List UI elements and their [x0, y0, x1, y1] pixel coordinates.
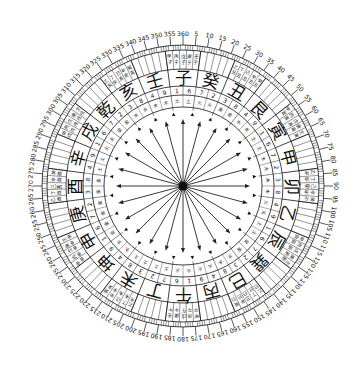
- number-cell: 9: [199, 276, 204, 284]
- degree-label-150: 150: [253, 313, 267, 325]
- degree-label-85: 85: [332, 168, 340, 177]
- triangle-marker: [137, 126, 142, 131]
- element-cell: 金: [108, 230, 116, 237]
- dragon-branch: 午: [181, 307, 186, 314]
- element-cell: 火: [197, 100, 203, 106]
- number-cell: 8: [222, 268, 229, 276]
- degree-label-290: 290: [34, 127, 45, 141]
- degree-label-65: 65: [317, 116, 327, 126]
- degree-label-30: 30: [254, 48, 264, 58]
- degree-label-350: 350: [150, 31, 163, 40]
- triangle-marker: [224, 241, 229, 246]
- degree-label-20: 20: [230, 38, 240, 47]
- dragon-branch: 酉: [57, 170, 63, 176]
- mountain-子: 子: [175, 68, 192, 88]
- dragon-branch: 子: [174, 59, 179, 65]
- triangle-marker: [253, 175, 257, 179]
- degree-label-360: 360: [177, 30, 189, 37]
- number-cell: 7: [199, 89, 204, 97]
- number-cell: 7: [162, 276, 167, 284]
- element-cell: 金: [95, 178, 101, 183]
- arrow-head-icon: [164, 121, 169, 127]
- degree-label-15: 15: [218, 34, 227, 43]
- element-cell: 火: [197, 266, 203, 272]
- element-cell: 金: [227, 111, 234, 119]
- triangle-marker: [123, 227, 128, 232]
- degree-label-265: 265: [27, 193, 35, 205]
- number-cell: 6: [100, 129, 108, 136]
- number-cell: 8: [126, 261, 133, 269]
- dragon-stem: 壬: [167, 313, 173, 319]
- triangle-marker: [224, 126, 229, 131]
- element-cell: 火: [207, 263, 213, 269]
- number-cell: 7: [270, 152, 278, 158]
- arrow-head-icon: [118, 167, 124, 172]
- degree-label-35: 35: [266, 56, 277, 66]
- degree-label-235: 235: [51, 267, 64, 281]
- arrow-head-icon: [181, 248, 185, 253]
- number-cell: 1: [175, 87, 179, 94]
- degree-label-90: 90: [333, 182, 340, 190]
- element-cell: 土: [256, 220, 264, 227]
- number-cell: 4: [86, 165, 94, 170]
- dragon-stem: 己: [311, 184, 316, 189]
- element-cell: 土: [163, 266, 169, 273]
- triangle-marker: [153, 250, 158, 255]
- degree-label-275: 275: [27, 166, 35, 178]
- degree-label-240: 240: [44, 256, 56, 270]
- number-cell: 8: [275, 190, 282, 194]
- element-cell: 金: [98, 210, 105, 217]
- number-cell: 3: [126, 103, 133, 111]
- arrow-head-icon: [164, 245, 169, 251]
- dragon-branch: 卯: [304, 184, 311, 189]
- element-cell: 木: [262, 166, 270, 172]
- number-cell: 9: [162, 88, 167, 96]
- number-cell: 6: [174, 278, 178, 285]
- number-cell: 9: [269, 214, 277, 220]
- element-cell: 土: [98, 155, 105, 162]
- arrow-head-icon: [236, 151, 242, 157]
- degree-label-10: 10: [205, 31, 214, 39]
- mountain-酉: 酉: [65, 178, 85, 195]
- dragon-branch: 午: [174, 306, 179, 313]
- element-cell: 水: [227, 253, 234, 261]
- degree-label-210: 210: [100, 312, 114, 324]
- dragon-branch: 辰: [279, 255, 287, 263]
- dragon-stem: 乙: [310, 170, 316, 176]
- number-cell: 9: [107, 245, 115, 253]
- element-cell: 土: [256, 145, 264, 152]
- degree-label-325: 325: [88, 54, 102, 67]
- dragon-branch: 卯: [303, 170, 310, 176]
- element-cell: 金: [123, 118, 131, 126]
- mountain-卯: 卯: [282, 178, 302, 195]
- degree-label-95: 95: [332, 195, 340, 204]
- arrow-head-icon: [245, 184, 250, 188]
- number-cell: 4: [242, 110, 250, 118]
- element-cell: 金: [243, 239, 251, 247]
- arrow-head-icon: [148, 239, 154, 245]
- number-cell: 4: [211, 273, 217, 281]
- degree-label-160: 160: [229, 324, 243, 335]
- number-cell: 3: [275, 178, 282, 182]
- degree-label-285: 285: [30, 140, 40, 153]
- dragon-branch: 酉: [57, 190, 63, 195]
- number-cell: 1: [100, 235, 108, 242]
- degree-label-245: 245: [39, 244, 50, 258]
- number-cell: 1: [265, 225, 273, 232]
- number-cell: 2: [149, 272, 155, 280]
- dragon-branch: 午: [193, 306, 199, 313]
- degree-label-205: 205: [111, 319, 125, 330]
- triangle-marker: [109, 175, 113, 179]
- element-cell: 土: [152, 263, 159, 270]
- triangle-marker: [247, 156, 252, 161]
- arrow-head-icon: [242, 167, 248, 172]
- arrow-head-icon: [197, 245, 202, 251]
- element-cell: 火: [207, 102, 213, 108]
- triangle-marker: [190, 256, 194, 260]
- number-cell: 7: [107, 119, 115, 127]
- degree-label-115: 115: [316, 244, 327, 258]
- degree-label-110: 110: [321, 232, 332, 246]
- arrow-head-icon: [148, 127, 154, 133]
- degree-label-100: 100: [329, 206, 338, 219]
- degree-label-50: 50: [295, 82, 305, 93]
